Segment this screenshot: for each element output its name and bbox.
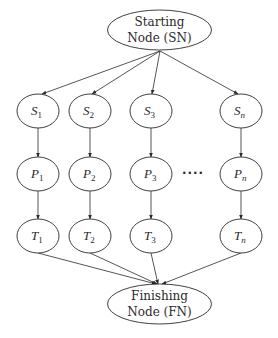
finishing-node: Finishing Node (FN) (108, 284, 212, 324)
t-row: T1 T2 T3 Tn (17, 219, 262, 253)
edge-sn-s2 (92, 51, 160, 94)
ellipsis-dots: ···· (182, 166, 204, 180)
node-t1: T1 (17, 219, 59, 253)
starting-node-label-line2: Node (SN) (127, 31, 191, 45)
node-pn: Pn (220, 157, 262, 191)
flow-diagram: Starting Node (SN) S1 S2 S3 Sn P1 P2 (0, 0, 278, 338)
node-p2: P2 (69, 157, 111, 191)
edge-t3-fn (151, 253, 158, 284)
s-row: S1 S2 S3 Sn (17, 94, 262, 128)
node-t3: T3 (130, 219, 172, 253)
edge-sn-s3 (152, 51, 160, 94)
edges-start-to-s (42, 51, 238, 94)
node-tn: Tn (220, 219, 262, 253)
node-sn: Sn (220, 94, 262, 128)
edge-tn-fn (162, 253, 241, 284)
node-t2: T2 (69, 219, 111, 253)
node-p1: P1 (17, 157, 59, 191)
edge-sn-s1 (42, 51, 160, 94)
node-p3: P3 (130, 157, 172, 191)
edge-t2-fn (90, 253, 157, 284)
edges-t-to-finish (38, 253, 241, 284)
starting-node: Starting Node (SN) (108, 10, 212, 50)
finishing-node-label-line2: Node (FN) (127, 305, 192, 319)
node-s3: S3 (130, 94, 172, 128)
node-s2: S2 (69, 94, 111, 128)
starting-node-label-line1: Starting (134, 15, 184, 29)
edge-sn-sn (160, 51, 238, 94)
p-row: P1 P2 P3 ···· Pn (17, 157, 262, 191)
node-s1: S1 (17, 94, 59, 128)
edge-t1-fn (38, 253, 156, 284)
finishing-node-label-line1: Finishing (131, 289, 188, 303)
